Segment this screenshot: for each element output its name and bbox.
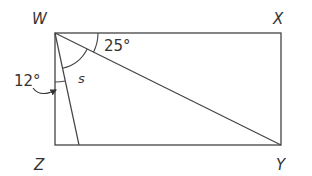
slanted-line-wp <box>55 33 79 145</box>
vertex-label-w: W <box>32 10 48 28</box>
diagonal-wy <box>55 33 281 145</box>
angle-label-25: 25° <box>104 37 131 55</box>
arc-25-degree <box>94 33 99 52</box>
vertex-label-z: Z <box>33 156 45 174</box>
vertex-label-x: X <box>272 10 284 28</box>
vertex-label-y: Y <box>276 156 287 174</box>
arc-12-degree <box>55 81 65 82</box>
angle-label-12: 12° <box>14 72 41 90</box>
arc-s <box>63 49 88 68</box>
geometry-diagram: W X Z Y 25° s 12° <box>0 0 312 176</box>
angle-label-s: s <box>78 71 85 86</box>
